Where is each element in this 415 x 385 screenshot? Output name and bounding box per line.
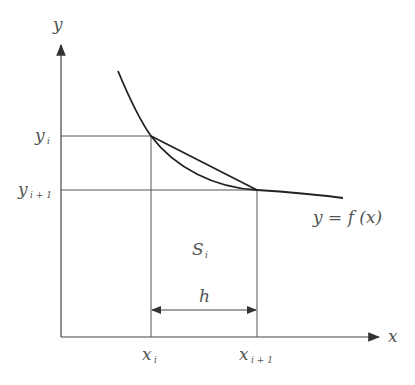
trapezoid-chord	[151, 136, 257, 190]
svg-text:i: i	[47, 136, 50, 146]
yi-label: y i	[34, 125, 50, 146]
yi1-label: y i + 1	[17, 179, 52, 200]
svg-text:i: i	[205, 250, 208, 260]
svg-text:y: y	[34, 125, 45, 145]
svg-text:y: y	[17, 179, 28, 199]
x-axis-label: x	[388, 326, 398, 346]
xi-label: x i	[142, 344, 157, 365]
svg-text:i: i	[154, 355, 157, 365]
area-label: S i	[192, 239, 208, 260]
svg-text:i + 1: i + 1	[30, 190, 52, 200]
trapezoid-diagram: y x y i y i + 1 x i x i + 1 S i h y = f …	[0, 0, 415, 385]
svg-text:i + 1: i + 1	[251, 355, 273, 365]
function-curve	[118, 71, 343, 198]
y-axis-label: y	[52, 14, 63, 34]
h-label: h	[199, 286, 210, 306]
svg-text:S: S	[192, 239, 204, 259]
curve-label: y = f (x)	[312, 207, 382, 227]
xi1-label: x i + 1	[239, 344, 273, 365]
svg-text:x: x	[142, 344, 152, 364]
svg-text:x: x	[239, 344, 249, 364]
